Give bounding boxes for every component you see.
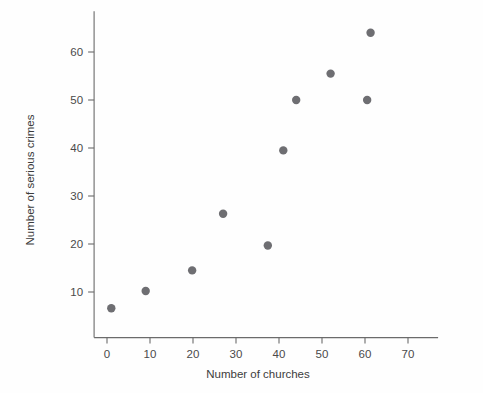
x-tick-label: 20 [187, 348, 200, 360]
data-point [188, 266, 196, 274]
plot-canvas: 102030405060 010203040506070 Number of c… [0, 0, 483, 393]
scatter-plot-figure: 102030405060 010203040506070 Number of c… [0, 0, 483, 393]
data-point [292, 96, 300, 104]
data-point [264, 241, 272, 249]
x-axis-ticks: 010203040506070 [104, 338, 415, 360]
y-axis-title: Number of serious crimes [24, 114, 36, 245]
y-tick-label: 50 [70, 94, 83, 106]
x-tick-label: 40 [273, 348, 286, 360]
x-tick-label: 70 [402, 348, 415, 360]
x-tick-label: 10 [144, 348, 157, 360]
data-point [363, 96, 371, 104]
x-tick-label: 30 [230, 348, 243, 360]
y-axis-group: 102030405060 [70, 11, 94, 337]
y-tick-label: 10 [70, 286, 83, 298]
y-tick-label: 40 [70, 142, 83, 154]
x-axis-title: Number of churches [206, 368, 310, 380]
data-point [279, 146, 287, 154]
x-tick-label: 60 [359, 348, 372, 360]
x-tick-label: 0 [104, 348, 110, 360]
data-point [366, 29, 374, 37]
x-axis-group: 010203040506070 [94, 338, 438, 360]
x-tick-label: 50 [316, 348, 329, 360]
data-points-layer [107, 29, 375, 313]
y-axis-ticks: 102030405060 [70, 46, 94, 298]
y-tick-label: 30 [70, 190, 83, 202]
data-point [219, 210, 227, 218]
data-point [142, 287, 150, 295]
y-tick-label: 60 [70, 46, 83, 58]
data-point [107, 304, 115, 312]
y-tick-label: 20 [70, 238, 83, 250]
data-point [326, 69, 334, 77]
